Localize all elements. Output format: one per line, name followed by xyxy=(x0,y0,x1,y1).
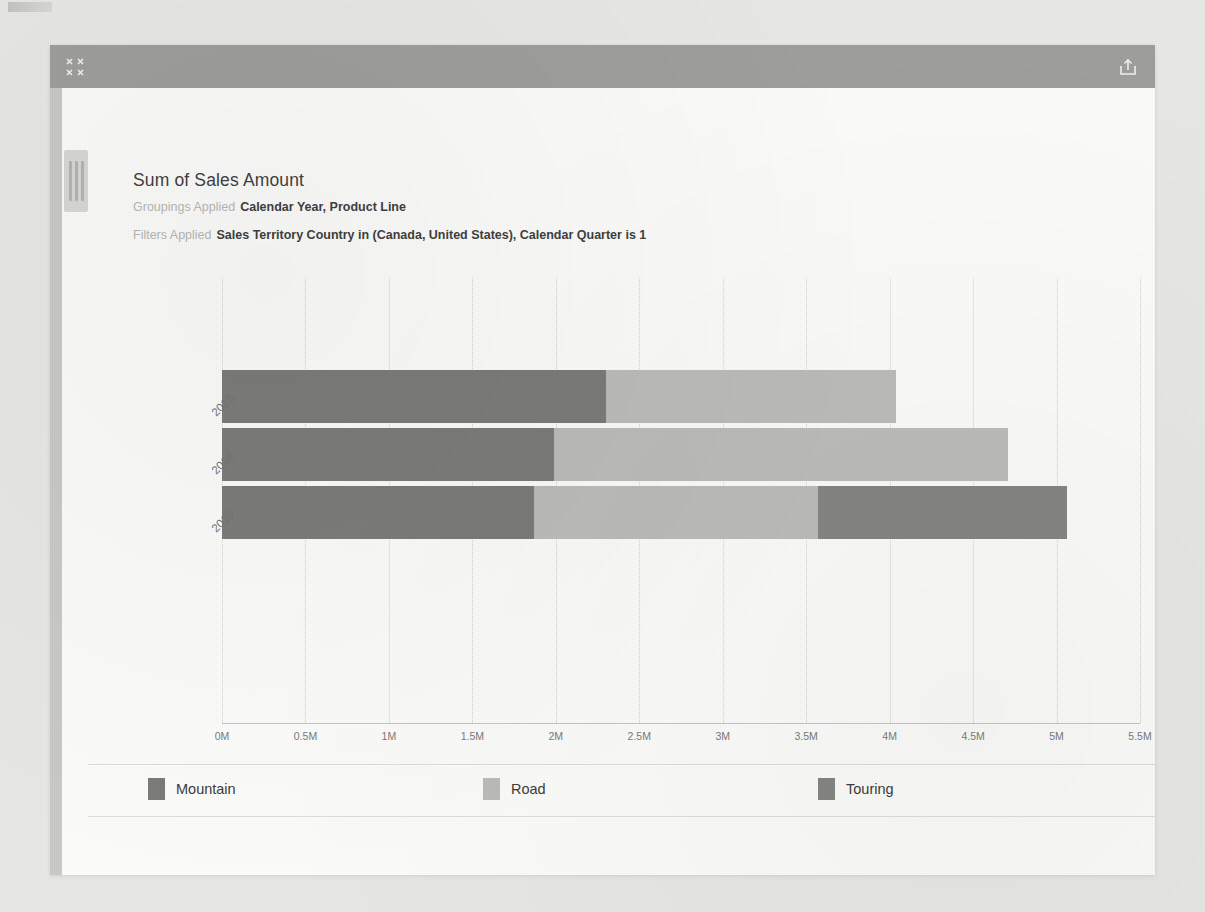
report-window: Sum of Sales Amount Groupings AppliedCal… xyxy=(50,45,1155,875)
legend-item-road[interactable]: Road xyxy=(483,778,546,800)
bar-segment-road[interactable] xyxy=(554,428,1008,481)
bar-row[interactable] xyxy=(222,370,1140,423)
left-rail xyxy=(50,88,62,875)
report-canvas: Sum of Sales Amount Groupings AppliedCal… xyxy=(88,88,1155,875)
share-export-icon[interactable] xyxy=(1115,54,1141,80)
window-titlebar xyxy=(50,45,1155,88)
x-tick-0M: 0M xyxy=(215,730,230,742)
bar-segment-mountain[interactable] xyxy=(222,486,534,539)
plot-area xyxy=(222,278,1140,723)
legend-label: Touring xyxy=(846,781,894,797)
bar-row[interactable] xyxy=(222,428,1140,481)
legend-swatch-road xyxy=(483,778,500,800)
gridline xyxy=(1140,278,1141,723)
x-tick-2M: 2M xyxy=(549,730,564,742)
collapse-arrows-icon[interactable] xyxy=(62,54,88,80)
x-tick-3M: 3M xyxy=(715,730,730,742)
x-tick-3.5M: 3.5M xyxy=(795,730,818,742)
bar-segment-mountain[interactable] xyxy=(222,428,554,481)
legend-swatch-touring xyxy=(818,778,835,800)
stacked-bar-chart: 0M0.5M1M1.5M2M2.5M3M3.5M4M4.5M5M5.5M 201… xyxy=(88,88,1155,875)
bar-segment-touring[interactable] xyxy=(818,486,1067,539)
legend-divider-bottom xyxy=(88,816,1155,817)
bar-segment-road[interactable] xyxy=(534,486,818,539)
x-axis-line xyxy=(222,723,1140,724)
page-corner-mark xyxy=(8,2,52,12)
x-tick-4.5M: 4.5M xyxy=(961,730,984,742)
x-tick-1M: 1M xyxy=(382,730,397,742)
legend-item-mountain[interactable]: Mountain xyxy=(148,778,236,800)
x-tick-4M: 4M xyxy=(882,730,897,742)
legend-swatch-mountain xyxy=(148,778,165,800)
legend-label: Mountain xyxy=(176,781,236,797)
x-tick-2.5M: 2.5M xyxy=(628,730,651,742)
x-tick-0.5M: 0.5M xyxy=(294,730,317,742)
bar-row[interactable] xyxy=(222,486,1140,539)
bar-segment-road[interactable] xyxy=(606,370,896,423)
x-tick-5M: 5M xyxy=(1049,730,1064,742)
legend-label: Road xyxy=(511,781,546,797)
legend-item-touring[interactable]: Touring xyxy=(818,778,894,800)
x-tick-5.5M: 5.5M xyxy=(1128,730,1151,742)
x-tick-1.5M: 1.5M xyxy=(461,730,484,742)
legend-divider-top xyxy=(88,764,1155,765)
panel-drag-handle[interactable] xyxy=(64,150,88,212)
bar-segment-mountain[interactable] xyxy=(222,370,606,423)
